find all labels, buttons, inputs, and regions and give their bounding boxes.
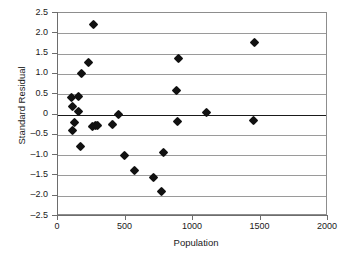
y-gridline: [58, 155, 326, 156]
data-point-marker: [149, 172, 159, 182]
data-point-marker: [73, 92, 83, 102]
data-point-marker: [202, 108, 212, 118]
y-axis-tick-label: 2.0: [8, 28, 48, 37]
x-axis-tick-label: 1500: [240, 222, 280, 231]
y-axis-tick-label: 0.5: [8, 89, 48, 98]
y-axis-tick: [52, 93, 57, 94]
data-point-marker: [173, 116, 183, 126]
data-point-marker: [83, 58, 93, 68]
y-axis-tick-label: 0: [8, 109, 48, 118]
y-axis-tick-label: –0.5: [8, 129, 48, 138]
y-axis-tick: [52, 154, 57, 155]
y-axis-tick: [52, 114, 57, 115]
y-axis-tick: [52, 73, 57, 74]
x-axis-tick: [57, 215, 58, 220]
y-axis-line: [57, 12, 58, 215]
y-axis-tick: [52, 134, 57, 135]
x-axis-tick-label: 1000: [172, 222, 212, 231]
y-axis-title: Standard Residual: [16, 46, 27, 166]
y-gridline: [58, 54, 326, 55]
y-axis-tick-label: –2.0: [8, 190, 48, 199]
x-axis-tick-label: 2000: [307, 222, 347, 231]
y-gridline: [58, 196, 326, 197]
plot-area: [57, 12, 327, 215]
data-point-marker: [120, 150, 130, 160]
x-axis-tick: [260, 215, 261, 220]
x-axis-tick-label: 0: [37, 222, 77, 231]
data-point-marker: [107, 120, 117, 130]
data-point-marker: [75, 141, 85, 151]
data-point-marker: [249, 116, 259, 126]
y-axis-tick-label: 1.5: [8, 48, 48, 57]
data-point-marker: [173, 54, 183, 64]
y-gridline: [58, 175, 326, 176]
y-axis-tick-label: –1.0: [8, 150, 48, 159]
y-axis-tick-label: 1.0: [8, 68, 48, 77]
x-axis-tick: [125, 215, 126, 220]
data-point-marker: [77, 69, 87, 79]
y-axis-tick-label: 2.5: [8, 8, 48, 17]
y-gridline: [58, 94, 326, 95]
y-axis-tick: [52, 174, 57, 175]
zero-gridline: [58, 115, 326, 116]
x-axis-tick-label: 500: [105, 222, 145, 231]
y-axis-tick-label: –1.5: [8, 170, 48, 179]
data-point-marker: [88, 19, 98, 29]
y-gridline: [58, 33, 326, 34]
data-point-marker: [129, 166, 139, 176]
y-axis-tick-label: –2.5: [8, 211, 48, 220]
y-axis-tick: [52, 32, 57, 33]
y-axis-tick: [52, 195, 57, 196]
y-axis-tick: [52, 12, 57, 13]
x-axis-title: Population: [0, 237, 352, 248]
data-point-marker: [114, 109, 124, 119]
y-axis-tick: [52, 53, 57, 54]
y-gridline: [58, 135, 326, 136]
y-gridline: [58, 74, 326, 75]
scatter-chart-figure: Standard Residual Population 2.52.01.51.…: [0, 0, 352, 259]
data-point-marker: [249, 38, 259, 48]
x-axis-tick: [327, 215, 328, 220]
x-axis-tick: [192, 215, 193, 220]
